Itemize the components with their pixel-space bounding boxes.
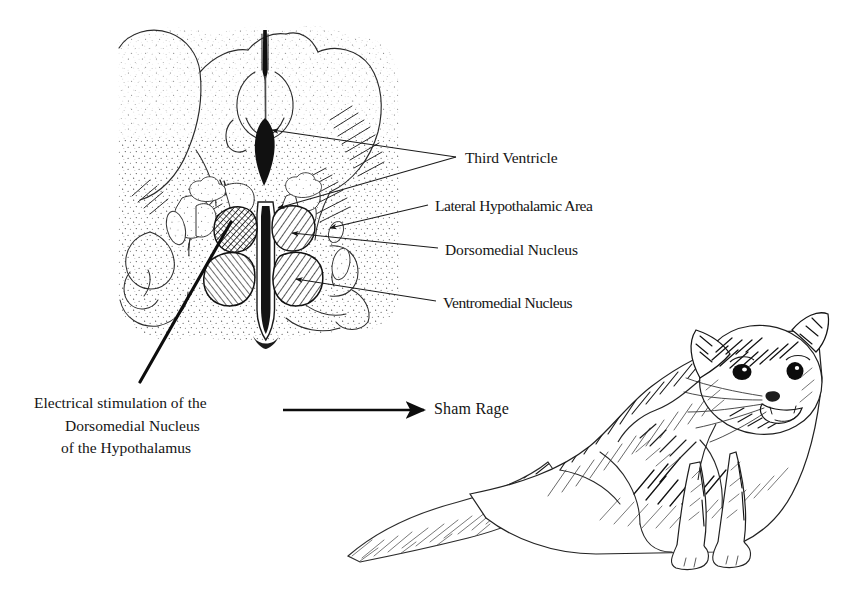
cat-eye-right bbox=[787, 362, 804, 380]
caption-line-3: of the Hypothalamus bbox=[34, 437, 284, 460]
label-ventromedial-nucleus: Ventromedial Nucleus bbox=[443, 294, 572, 312]
label-dorsomedial-nucleus: Dorsomedial Nucleus bbox=[445, 241, 578, 259]
sham-rage-label: Sham Rage bbox=[434, 400, 509, 418]
caption-line-1: Electrical stimulation of the bbox=[34, 392, 284, 415]
cat-eye-left bbox=[733, 364, 752, 380]
label-lateral-hypothalamic-area: Lateral Hypothalamic Area bbox=[435, 197, 592, 215]
caption-line-2: Dorsomedial Nucleus bbox=[34, 415, 284, 438]
sham-rage-cat bbox=[0, 0, 852, 589]
stimulation-caption: Electrical stimulation of the Dorsomedia… bbox=[34, 392, 284, 460]
figure-canvas: Third Ventricle Lateral Hypothalamic Are… bbox=[0, 0, 852, 589]
label-third-ventricle: Third Ventricle bbox=[465, 149, 557, 167]
